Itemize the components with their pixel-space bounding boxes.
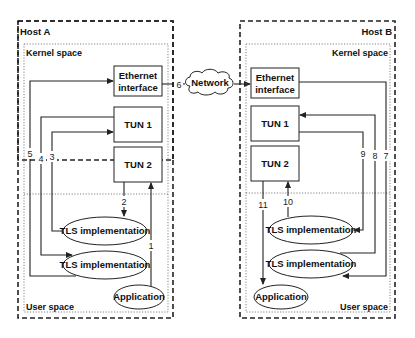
network-cloud: Network (186, 69, 234, 95)
svg-text:TUN 2: TUN 2 (261, 158, 288, 169)
diagram-canvas: Host A Kernel space User space Ethernet … (0, 0, 415, 338)
flow-7-label: 7 (383, 151, 388, 161)
svg-text:TUN 1: TUN 1 (261, 118, 289, 129)
host-a-title: Host A (20, 26, 50, 37)
host-a-tls-lower: TLS implementation (60, 251, 151, 279)
host-a-tls-upper: TLS implementation (60, 217, 151, 245)
host-b-user-space-label: User space (340, 302, 388, 312)
host-a-kernel-space-label: Kernel space (26, 48, 82, 58)
flow-5-label: 5 (27, 149, 32, 159)
flow-4-label: 4 (38, 154, 43, 164)
flow-8-label: 8 (372, 151, 377, 161)
host-b-tun2: TUN 2 (251, 146, 299, 181)
host-a-ethernet-interface: Ethernet interface (114, 66, 162, 96)
host-b-kernel-space-label: Kernel space (332, 48, 388, 58)
svg-text:TLS implementation: TLS implementation (266, 224, 357, 235)
host-a-application: Application (113, 285, 165, 309)
flow-10-label: 10 (283, 197, 293, 207)
flow-1-label: 1 (148, 241, 153, 251)
flow-3-label: 3 (49, 152, 54, 162)
svg-text:TLS implementation: TLS implementation (60, 225, 151, 236)
svg-text:Ethernet: Ethernet (119, 70, 158, 81)
host-b-ethernet-interface: Ethernet interface (251, 68, 299, 98)
flow-2-label: 2 (121, 197, 126, 207)
host-a-tun2: TUN 2 (114, 147, 162, 182)
flow-9-label: 9 (360, 149, 365, 159)
host-b-tls-lower: TLS implementation (266, 250, 357, 278)
flow-7-arrow (299, 82, 386, 276)
host-b-title: Host B (361, 26, 392, 37)
svg-text:interface: interface (118, 82, 158, 93)
host-a-user-space-label: User space (26, 302, 74, 312)
svg-text:interface: interface (255, 84, 295, 95)
flow-6-label: 6 (176, 80, 181, 90)
network-label: Network (191, 77, 229, 88)
svg-text:TUN 2: TUN 2 (124, 159, 151, 170)
host-b-tls-upper: TLS implementation (266, 216, 357, 244)
host-b-tun1: TUN 1 (251, 106, 299, 141)
svg-text:TUN 1: TUN 1 (124, 119, 152, 130)
svg-text:Application: Application (113, 291, 165, 302)
flow-5-arrow (30, 81, 113, 276)
svg-text:Application: Application (255, 291, 307, 302)
host-a-tun1: TUN 1 (114, 107, 162, 142)
flow-9-arrow (299, 132, 363, 230)
host-b-application: Application (254, 285, 308, 309)
svg-text:TLS implementation: TLS implementation (60, 259, 151, 270)
flow-3-arrow (52, 132, 113, 231)
svg-text:Ethernet: Ethernet (256, 72, 295, 83)
flow-11-label: 11 (258, 200, 267, 210)
svg-text:TLS implementation: TLS implementation (266, 258, 357, 269)
